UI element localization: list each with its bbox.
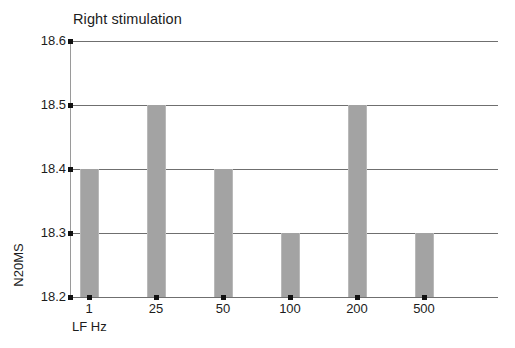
- y-tick-marker-18-6: [68, 39, 73, 44]
- plot-area: [70, 41, 498, 297]
- x-axis-title: LF Hz: [72, 319, 107, 334]
- y-tick-label-0: 18.6: [26, 33, 66, 48]
- bar-chart-figure: Right stimulation 18.6 18.5 18.4 18.3 18…: [0, 0, 515, 348]
- y-axis-title: N20MS: [11, 235, 26, 295]
- y-tick-label-group: 18.6 18.5 18.4 18.3 18.2: [22, 0, 66, 348]
- bar-200: [348, 105, 367, 297]
- x-tick-marker-200: [355, 295, 360, 300]
- gridline-18-5: [70, 105, 498, 106]
- bar-25: [147, 105, 166, 297]
- x-tick-marker-1: [87, 295, 92, 300]
- x-tick-marker-50: [221, 295, 226, 300]
- y-tick-label-4: 18.2: [26, 289, 66, 304]
- y-tick-marker-18-5: [68, 103, 73, 108]
- x-tick-label-2: 50: [198, 301, 248, 316]
- x-tick-label-1: 25: [131, 301, 181, 316]
- gridline-18-2: [70, 297, 498, 298]
- x-tick-label-0: 1: [64, 301, 114, 316]
- bar-500: [415, 233, 434, 297]
- x-tick-marker-25: [154, 295, 159, 300]
- x-tick-label-3: 100: [265, 301, 315, 316]
- y-tick-label-3: 18.3: [26, 225, 66, 240]
- bar-100: [281, 233, 300, 297]
- gridline-18-4: [70, 169, 498, 170]
- bar-1: [80, 169, 99, 297]
- y-tick-label-2: 18.4: [26, 161, 66, 176]
- bar-50: [214, 169, 233, 297]
- y-tick-marker-18-2: [68, 295, 73, 300]
- chart-title: Right stimulation: [73, 11, 182, 27]
- y-tick-marker-18-4: [68, 167, 73, 172]
- x-tick-marker-100: [288, 295, 293, 300]
- y-tick-marker-18-3: [68, 231, 73, 236]
- gridline-18-6: [70, 41, 498, 42]
- y-tick-label-1: 18.5: [26, 97, 66, 112]
- x-tick-label-4: 200: [332, 301, 382, 316]
- x-tick-marker-500: [422, 295, 427, 300]
- x-tick-label-5: 500: [399, 301, 449, 316]
